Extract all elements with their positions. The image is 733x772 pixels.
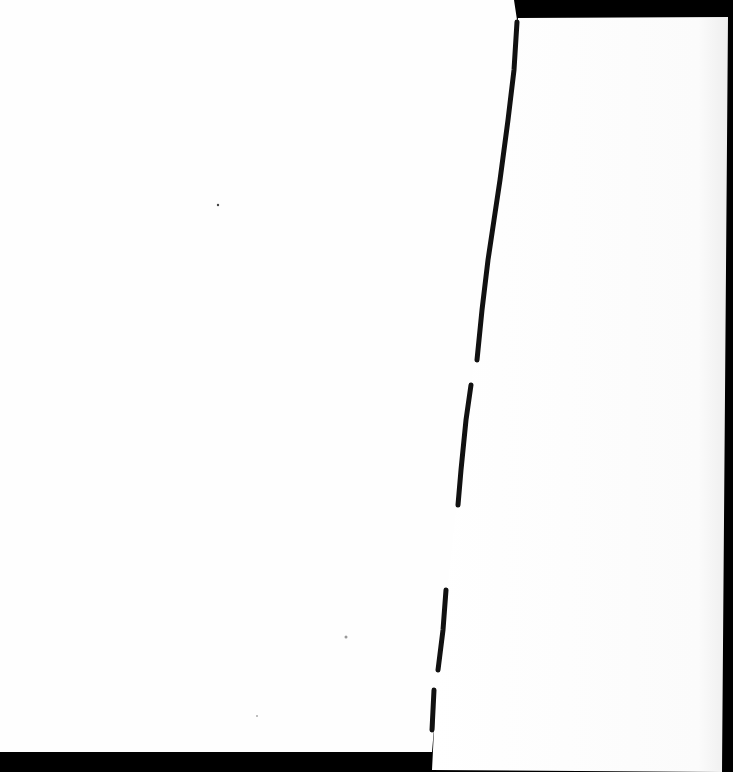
speck [256,715,258,717]
speck [217,204,219,206]
speck [345,636,348,639]
scan-canvas [0,0,733,772]
torn-paper-illustration [0,0,733,772]
